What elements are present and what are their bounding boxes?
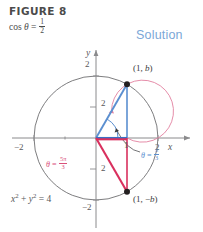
fraction-denominator: 2 [39, 26, 45, 35]
cos-label: cos [9, 22, 22, 32]
lower-point-open: (1, − [133, 194, 150, 204]
pink-equals: = [52, 160, 57, 169]
y-tick-label-pos2: 2 [85, 60, 90, 69]
x-tick-label-one: 1 [124, 141, 129, 150]
upper-point-open: (1, [133, 63, 145, 73]
y-tick-label-neg2: −2 [82, 203, 92, 212]
figure-title: FIGURE 8 [9, 5, 67, 17]
lower-point-close: ) [155, 194, 158, 204]
pink-frac-den: 3 [59, 163, 67, 171]
point-upper-1-b [124, 81, 130, 87]
equals-sign: = [31, 22, 36, 32]
reflex-angle-arc-5pi3 [112, 80, 174, 142]
upper-point-label: (1, b) [133, 64, 153, 73]
pink-theta-symbol: θ [46, 160, 50, 169]
x-axis-arrow [184, 136, 190, 141]
figure-subtitle-equation: cos θ = 1 2 [9, 18, 46, 34]
upper-hypotenuse-length-label: 2 [101, 99, 106, 108]
circle-equation-label: x2 + y2 = 4 [11, 193, 51, 205]
blue-frac-den: 3 [154, 154, 159, 162]
lower-hypotenuse-length-label: 2 [101, 164, 106, 173]
coordinate-plot: −2 2 x 1 y 2 −2 2 2 (1, b) (1, −b) θ = π… [0, 40, 203, 232]
fraction-numerator: 1 [39, 18, 45, 26]
five-pi-over-3-fraction: 5π 3 [59, 156, 67, 170]
angle-label-pi-over-3: θ = π 3 [141, 147, 160, 161]
lower-point-label: (1, −b) [133, 195, 158, 204]
upper-point-close: ) [150, 63, 153, 73]
angle-label-5pi-over-3: θ = 5π 3 [46, 156, 68, 170]
blue-equals: = [147, 151, 152, 160]
point-lower-1-negb [124, 189, 130, 195]
x-tick-label-neg2: −2 [14, 143, 24, 152]
upper-hypotenuse [96, 84, 127, 138]
figure-panel: FIGURE 8 cos θ = 1 2 Solution [0, 0, 203, 232]
y-axis-label: y [86, 49, 90, 59]
pink-frac-num: 5π [59, 156, 67, 163]
x-axis-label: x [168, 143, 172, 153]
eq-plus: + [19, 194, 29, 204]
eq-tail: = 4 [36, 194, 51, 204]
pi-over-3-fraction: π 3 [154, 147, 159, 161]
theta-symbol: θ [24, 22, 29, 32]
one-half-fraction: 1 2 [39, 18, 45, 34]
y-axis-arrow [94, 50, 99, 56]
blue-theta-symbol: θ [141, 151, 145, 160]
